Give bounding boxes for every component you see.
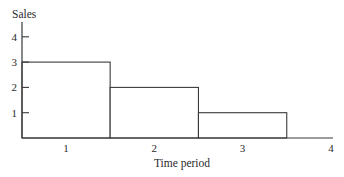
bar-period-3 — [198, 113, 286, 138]
x-ticks-group: 1234 — [63, 142, 334, 154]
y-tick-label: 2 — [12, 81, 18, 93]
bar-period-2 — [110, 87, 198, 138]
x-tick-label: 4 — [328, 142, 334, 154]
x-tick-label: 3 — [240, 142, 246, 154]
y-axis-title: Sales — [12, 8, 37, 20]
sales-chart: 1234 1234 Sales Time period — [0, 0, 344, 177]
y-tick-label: 4 — [12, 31, 18, 43]
x-tick-label: 2 — [152, 142, 158, 154]
bar-period-1 — [22, 62, 110, 138]
x-axis-title: Time period — [154, 157, 210, 170]
y-tick-label: 1 — [12, 107, 18, 119]
bars-group — [22, 62, 287, 138]
x-tick-label: 1 — [63, 142, 69, 154]
y-tick-label: 3 — [12, 56, 18, 68]
